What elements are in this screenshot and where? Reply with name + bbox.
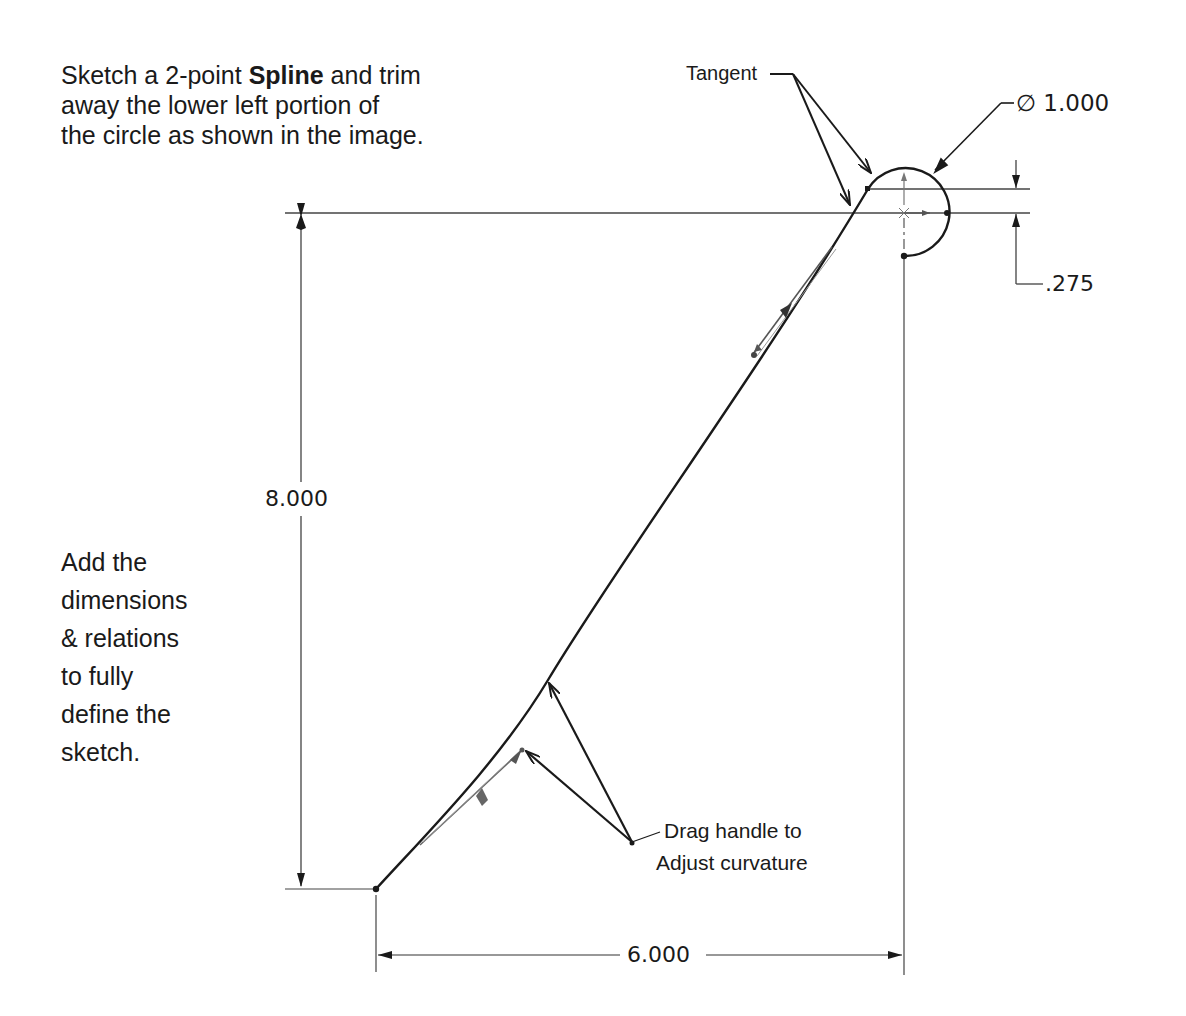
top-instructions-line3: the circle as shown in the image. [61,120,424,150]
tangent-label: Tangent [686,57,757,89]
lower-spline-handle[interactable] [420,748,525,846]
spline-curve[interactable] [376,189,868,889]
height-dimension[interactable] [296,214,306,886]
diameter-leader [935,103,1014,172]
arc-right-point [944,210,950,216]
offset-dimension[interactable] [866,160,1043,284]
drag-handle-leader [526,683,660,842]
left-instructions-line: Add the [61,543,187,581]
left-instructions: Add the dimensions & relations to fully … [61,543,187,771]
top-instructions-line1: Sketch a 2-point Spline and trim [61,60,424,90]
width-dimension-label[interactable]: 6.000 [627,943,690,967]
top-instructions: Sketch a 2-point Spline and trim away th… [61,60,424,150]
arc-endpoint [901,253,907,259]
sketch-drawing [0,0,1186,1016]
drag-handle-label: Drag handle to Adjust curvature [664,815,808,879]
left-instructions-line: define the [61,695,187,733]
left-instructions-line: & relations [61,619,187,657]
spline-keyword: Spline [249,61,324,89]
trimmed-circle-arc [868,168,949,256]
spline-start-point [373,886,379,892]
tangent-leader [770,74,871,205]
top-instructions-line2: away the lower left portion of [61,90,424,120]
diameter-dimension-label[interactable]: ∅ 1.000 [1016,91,1109,115]
height-dimension-label[interactable]: 8.000 [263,487,330,511]
offset-dimension-label[interactable]: .275 [1045,272,1094,296]
left-instructions-line: sketch. [61,733,187,771]
left-instructions-line: to fully [61,657,187,695]
left-instructions-line: dimensions [61,581,187,619]
